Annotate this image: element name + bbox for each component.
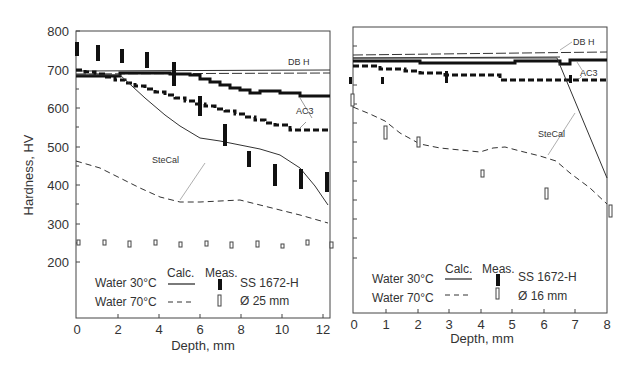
ac3-label: AC3 [580, 68, 598, 78]
hardness-figure: 800 700 600 500 400 300 200 Hardness, HV… [0, 0, 637, 371]
x-axis-label: Depth, mm [171, 338, 235, 353]
left-x-tick-labels: 0 2 4 6 8 10 12 [73, 322, 330, 337]
y-tick-label: 200 [47, 255, 69, 270]
legend-hollow-bar [496, 288, 499, 299]
legend-diameter: Ø 16 mm [518, 289, 567, 303]
x-axis-label: Depth, mm [450, 331, 514, 346]
legend-calc-header: Calc. [167, 266, 194, 280]
x-tick-label: 12 [316, 322, 330, 337]
y-tick-label: 800 [47, 24, 69, 39]
legend-water70: Water 70°C [95, 295, 157, 309]
x-tick-label: 0 [350, 317, 357, 332]
stecal-label: SteCal [538, 129, 565, 139]
legend-meas-header: Meas. [482, 262, 515, 276]
x-tick-label: 10 [275, 322, 289, 337]
ac3-70c-line [353, 66, 607, 80]
y-tick-label: 300 [47, 217, 69, 232]
x-tick-label: 8 [603, 317, 610, 332]
y-tick-label: 400 [47, 178, 69, 193]
stecal-70c-line [353, 107, 607, 204]
dbh-label: DB H [288, 57, 310, 67]
dbh-line [76, 70, 330, 71]
x-tick-label: 6 [196, 322, 203, 337]
left-x-ticks [118, 314, 323, 318]
meas-70c-bars [77, 240, 333, 248]
dbh-pointer [560, 42, 572, 50]
right-x-tick-labels: 0 1 2 3 4 5 6 7 8 [350, 317, 610, 332]
x-tick-label: 2 [114, 322, 121, 337]
right-plot: 0 1 2 3 4 5 6 7 8 Depth, mm DB H AC3 Ste… [349, 27, 612, 346]
legend-solid-bar [496, 274, 500, 286]
y-tick-label: 500 [47, 140, 69, 155]
stecal-label: SteCal [152, 155, 179, 165]
x-tick-label: 4 [477, 317, 484, 332]
legend-material: SS 1672-H [518, 270, 577, 284]
legend-calc-header: Calc. [445, 262, 472, 276]
legend-water30: Water 30°C [95, 276, 157, 290]
dbh-label: DB H [573, 37, 595, 47]
stecal-70c-line [76, 161, 328, 223]
meas-30c-bars [349, 71, 572, 84]
legend-water70: Water 70°C [372, 291, 434, 305]
x-tick-label: 6 [540, 317, 547, 332]
dbh-line-dashed [353, 52, 607, 55]
right-legend: Calc. Meas. Water 30°C Water 70°C SS 167… [372, 262, 577, 305]
left-y-ticks [76, 31, 80, 262]
legend-water30: Water 30°C [372, 272, 434, 286]
x-tick-label: 4 [155, 322, 162, 337]
x-tick-label: 1 [382, 317, 389, 332]
y-tick-label: 700 [47, 63, 69, 78]
x-tick-label: 0 [73, 322, 80, 337]
right-y-ticks [353, 46, 357, 258]
left-y-tick-labels: 800 700 600 500 400 300 200 [47, 24, 69, 270]
legend-material: SS 1672-H [240, 276, 299, 290]
ac3-pointer [300, 122, 306, 128]
left-legend: Calc. Meas. Water 30°C Water 70°C SS 167… [95, 266, 299, 309]
y-tick-label: 600 [47, 101, 69, 116]
legend-meas-header: Meas. [205, 266, 238, 280]
legend-diameter: Ø 25 mm [240, 294, 289, 308]
x-tick-label: 3 [445, 317, 452, 332]
ac3-label: AC3 [296, 106, 314, 116]
ac3-30c-line [353, 60, 607, 64]
dbh-line-dashed [76, 73, 330, 74]
legend-solid-bar [218, 279, 222, 290]
y-axis-label: Hardness, HV [21, 134, 36, 215]
x-tick-label: 7 [571, 317, 578, 332]
x-tick-label: 2 [414, 317, 421, 332]
right-x-ticks [386, 309, 575, 313]
x-tick-label: 8 [237, 322, 244, 337]
x-tick-label: 5 [508, 317, 515, 332]
meas-70c-bars [351, 94, 612, 217]
legend-hollow-bar [218, 295, 221, 306]
left-plot: 800 700 600 500 400 300 200 Hardness, HV… [21, 24, 333, 353]
stecal-pointer [180, 163, 205, 200]
